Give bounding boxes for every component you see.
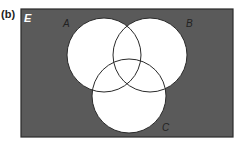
set-b-label: B — [186, 18, 193, 29]
universal-set-label: E — [24, 12, 32, 24]
venn-diagram: E A B C — [0, 0, 246, 146]
set-c-label: C — [162, 122, 170, 133]
set-a-label: A — [62, 18, 70, 29]
